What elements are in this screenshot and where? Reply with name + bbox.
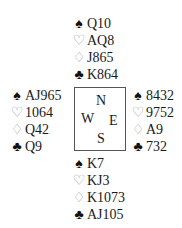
compass-north-label: N <box>96 94 106 108</box>
south-spades-cards: K7 <box>87 156 104 171</box>
south-diamonds-cards: K1073 <box>87 190 125 205</box>
compass-west-label: W <box>81 112 94 126</box>
north-hearts-cards: AQ8 <box>87 33 114 48</box>
west-spades: ♠AJ965 <box>10 87 62 104</box>
west-clubs: ♣Q9 <box>10 138 62 155</box>
south-clubs: ♣AJ105 <box>72 206 125 223</box>
south-clubs-cards: AJ105 <box>87 207 124 222</box>
east-diamonds-cards: A9 <box>146 122 163 137</box>
north-spades: ♠Q10 <box>72 15 118 32</box>
west-spades-cards: AJ965 <box>25 88 62 103</box>
north-hand: ♠Q10 ♡AQ8 ♢J865 ♣K864 <box>72 15 118 83</box>
east-clubs: ♣732 <box>131 138 174 155</box>
diamond-icon: ♢ <box>72 49 86 66</box>
west-hearts-cards: 1064 <box>25 105 53 120</box>
south-diamonds: ♢K1073 <box>72 189 125 206</box>
south-hearts: ♡KJ3 <box>72 172 125 189</box>
heart-icon: ♡ <box>10 104 24 121</box>
spade-icon: ♠ <box>72 15 86 32</box>
club-icon: ♣ <box>10 138 24 155</box>
south-hand: ♠K7 ♡KJ3 ♢K1073 ♣AJ105 <box>72 155 125 223</box>
west-diamonds: ♢Q42 <box>10 121 62 138</box>
east-spades-cards: 8432 <box>146 88 174 103</box>
diamond-icon: ♢ <box>10 121 24 138</box>
north-hearts: ♡AQ8 <box>72 32 118 49</box>
heart-icon: ♡ <box>72 32 86 49</box>
west-hand: ♠AJ965 ♡1064 ♢Q42 ♣Q9 <box>10 87 62 155</box>
heart-icon: ♡ <box>72 172 86 189</box>
spade-icon: ♠ <box>10 87 24 104</box>
club-icon: ♣ <box>131 138 145 155</box>
compass-south-label: S <box>97 132 105 146</box>
north-diamonds-cards: J865 <box>87 50 113 65</box>
spade-icon: ♠ <box>72 155 86 172</box>
compass-box: N W E S <box>74 87 126 151</box>
north-diamonds: ♢J865 <box>72 49 118 66</box>
east-hearts: ♡9752 <box>131 104 174 121</box>
spade-icon: ♠ <box>131 87 145 104</box>
north-spades-cards: Q10 <box>87 16 111 31</box>
north-clubs-cards: K864 <box>87 67 118 82</box>
club-icon: ♣ <box>72 206 86 223</box>
east-spades: ♠8432 <box>131 87 174 104</box>
south-hearts-cards: KJ3 <box>87 173 110 188</box>
diamond-icon: ♢ <box>131 121 145 138</box>
west-diamonds-cards: Q42 <box>25 122 49 137</box>
west-hearts: ♡1064 <box>10 104 62 121</box>
west-clubs-cards: Q9 <box>25 139 42 154</box>
diamond-icon: ♢ <box>72 189 86 206</box>
compass-east-label: E <box>109 114 118 128</box>
heart-icon: ♡ <box>131 104 145 121</box>
east-diamonds: ♢A9 <box>131 121 174 138</box>
east-clubs-cards: 732 <box>146 139 167 154</box>
club-icon: ♣ <box>72 66 86 83</box>
east-hearts-cards: 9752 <box>146 105 174 120</box>
north-clubs: ♣K864 <box>72 66 118 83</box>
south-spades: ♠K7 <box>72 155 125 172</box>
east-hand: ♠8432 ♡9752 ♢A9 ♣732 <box>131 87 174 155</box>
